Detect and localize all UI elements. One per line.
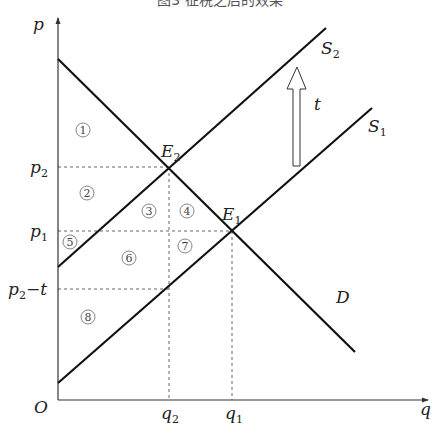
q1-label: q1 [225,403,243,426]
y-axis-label: p [33,14,44,34]
tax-incidence-diagram: 图3 征税之后的效果 p q O p2 p1 p2−t q2 q1 D S1 S… [0,0,437,433]
region-6: 6 [126,252,133,265]
demand-label: D [335,287,350,307]
region-8: 8 [85,311,92,324]
s2-label: S2 [321,38,340,61]
region-3: 3 [146,205,153,218]
tax-t-label: t [314,94,321,114]
guide-lines [58,167,232,400]
x-axis-label: q [420,399,431,419]
region-7: 7 [182,240,189,253]
e1-label: E1 [221,204,241,227]
region-4: 4 [184,205,191,218]
demand-curve [58,59,355,352]
origin-label: O [34,397,48,417]
p1-label: p1 [30,221,48,244]
figure-title: 图3 征税之后的效果 [157,0,282,8]
region-1: 1 [80,124,87,137]
e2-label: E2 [160,141,180,164]
p2-minus-t-label: p2−t [8,279,47,302]
tax-shift-arrow-icon [287,67,306,166]
supply-curve-s1 [58,108,372,383]
region-2: 2 [84,187,91,200]
region-5: 5 [67,236,74,249]
q2-label: q2 [161,403,179,426]
p2-label: p2 [30,157,48,180]
s1-label: S1 [368,116,387,139]
